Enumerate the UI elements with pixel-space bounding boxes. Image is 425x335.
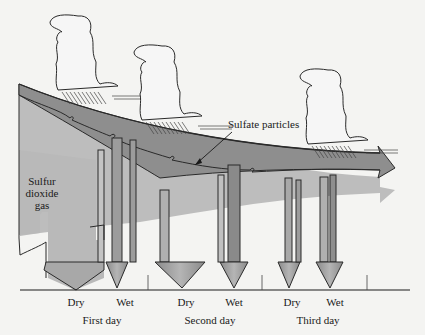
sulfate-particles-label: Sulfate particles — [228, 118, 299, 130]
gas-label-line-3: gas — [22, 199, 62, 211]
cloud-1-icon — [50, 15, 148, 104]
day1-wet-label: Wet — [116, 296, 133, 308]
second-day-label: Second day — [184, 314, 235, 326]
deposition-diagram — [0, 0, 425, 335]
gas-label-line-2: dioxide — [22, 187, 62, 199]
day3-wet-label: Wet — [326, 296, 343, 308]
sulfur-dioxide-gas-label: Sulfur dioxide gas — [22, 175, 62, 211]
cloud-2-icon — [134, 45, 232, 134]
day1-dry-label: Dry — [67, 296, 84, 308]
gas-label-line-1: Sulfur — [22, 175, 62, 187]
third-day-label: Third day — [296, 314, 339, 326]
day3-dry-label: Dry — [283, 296, 300, 308]
cloud-3-icon — [300, 69, 398, 158]
day2-dry-label: Dry — [177, 296, 194, 308]
day2-wet-label: Wet — [225, 296, 242, 308]
first-day-label: First day — [83, 314, 122, 326]
